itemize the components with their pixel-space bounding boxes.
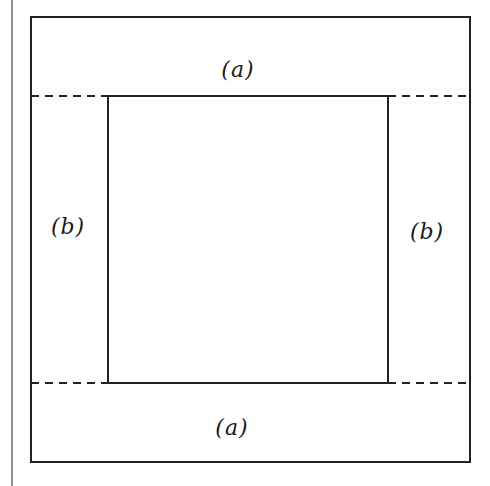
outer-frame-border: [31, 17, 470, 462]
label-bottom-strip-a: (a): [215, 417, 248, 439]
label-right-strip-b: (b): [410, 221, 444, 243]
label-left-strip-b: (b): [51, 216, 85, 238]
strip-division-dashed-lines: [31, 96, 470, 383]
label-top-strip-a: (a): [221, 59, 254, 81]
inner-panel-border: [108, 96, 388, 383]
